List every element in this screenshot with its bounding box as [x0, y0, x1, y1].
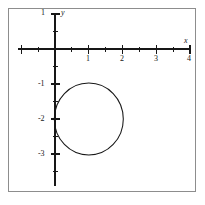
circle-curve — [54, 83, 123, 155]
x-tick-label-2: 2 — [120, 55, 124, 63]
y-tick-label-1: 1 — [41, 9, 45, 17]
plot-canvas — [0, 0, 205, 205]
axis-lines — [18, 14, 190, 186]
y-tick-label--3: -3 — [38, 150, 44, 158]
y-axis-title: y — [61, 9, 64, 17]
y-tick-label--2: -2 — [38, 115, 44, 123]
data-series-circle — [54, 83, 123, 155]
x-tick-label-4: 4 — [187, 55, 191, 63]
figure-container: 1 y -1 -2 -3 1 2 3 4 x — [0, 0, 205, 205]
y-tick-label--1: -1 — [38, 80, 44, 88]
x-tick-label-3: 3 — [154, 55, 158, 63]
x-axis-title: x — [184, 37, 187, 45]
x-tick-label-1: 1 — [86, 55, 90, 63]
